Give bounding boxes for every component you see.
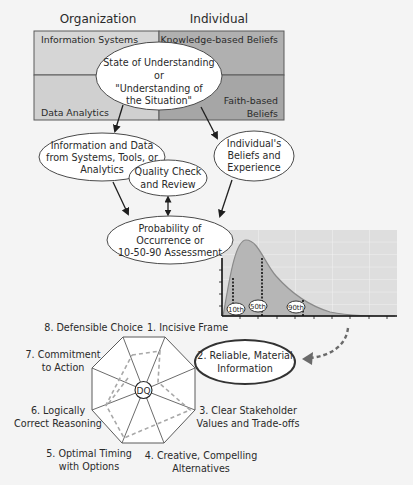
reliable-line-1: 2. Reliable, Material: [197, 350, 292, 361]
state-line-3: "Understanding of: [115, 83, 203, 94]
quadrant-label-faith-beliefs-1: Faith-based: [224, 95, 278, 106]
individual-beliefs-node: Individual's Beliefs and Experience: [214, 131, 294, 181]
quality-line-1: Quality Check: [135, 166, 202, 177]
arrow-beliefs-to-probability: [220, 180, 232, 216]
probability-line-1: Probability of: [138, 223, 202, 234]
state-line-1: State of Understanding: [103, 57, 214, 68]
dq-label-8: 8. Defensible Choice: [44, 322, 143, 333]
info-line-3: Analytics: [80, 164, 124, 175]
p10-label: 10th: [227, 303, 245, 315]
svg-text:90th: 90th: [288, 304, 304, 312]
quadrant-label-data-analytics: Data Analytics: [41, 107, 109, 118]
probability-distribution-chart: 10th 50th 90th: [219, 230, 397, 319]
quadrant-label-information-systems: Information Systems: [41, 34, 138, 45]
quality-check-node: Quality Check and Review: [129, 160, 207, 196]
dq-center-label: DQ: [136, 386, 150, 396]
dq-label-4-line-1: 4. Creative, Compelling: [145, 450, 258, 461]
dq-label-7-line-2: to Action: [42, 362, 85, 373]
dq-label-6-line-2: Correct Reasoning: [14, 418, 102, 429]
p50-label: 50th: [249, 300, 267, 312]
beliefs-line-2: Beliefs and: [227, 150, 280, 161]
dashed-arrow-head: [302, 352, 313, 365]
state-line-2: or: [154, 70, 164, 81]
probability-line-2: Occurrence or: [136, 235, 204, 246]
dq-label-6-line-1: 6. Logically: [31, 405, 85, 416]
dashed-arrow-chart-to-information: [310, 328, 348, 358]
state-of-understanding-node: State of Understanding or "Understanding…: [96, 42, 222, 110]
individual-header: Individual: [190, 12, 248, 26]
info-line-2: from Systems, Tools, or: [46, 152, 158, 163]
dq-element-2-node: 2. Reliable, Material Information: [195, 340, 295, 384]
probability-line-3: 10-50-90 Assessment: [118, 247, 222, 258]
p90-label: 90th: [287, 301, 305, 313]
organization-header: Organization: [60, 12, 137, 26]
dq-label-5-line-1: 5. Optimal Timing: [46, 448, 132, 459]
dq-label-3-line-2: Values and Trade-offs: [197, 418, 300, 429]
dq-label-3-line-1: 3. Clear Stakeholder: [199, 405, 297, 416]
arrow-info-to-probability: [113, 182, 128, 214]
dq-label-7-line-1: 7. Commitment: [26, 349, 101, 360]
svg-text:50th: 50th: [250, 303, 266, 311]
beliefs-line-1: Individual's: [227, 138, 281, 149]
info-line-1: Information and Data: [51, 140, 154, 151]
dq-label-1: 1. Incisive Frame: [147, 322, 228, 333]
dq-label-5-line-2: with Options: [59, 461, 119, 472]
quality-line-2: and Review: [140, 179, 195, 190]
state-line-4: the Situation": [126, 95, 192, 106]
dq-octagon: DQ: [92, 337, 195, 443]
dq-label-4-line-2: Alternatives: [172, 463, 230, 474]
quadrant-label-faith-beliefs-2: Beliefs: [247, 108, 278, 119]
probability-assessment-node: Probability of Occurrence or 10-50-90 As…: [107, 216, 233, 264]
beliefs-line-3: Experience: [227, 162, 281, 173]
decision-quality-diagram: Organization Individual Information Syst…: [0, 0, 413, 485]
svg-text:10th: 10th: [228, 306, 244, 314]
reliable-line-2: Information: [217, 363, 273, 374]
